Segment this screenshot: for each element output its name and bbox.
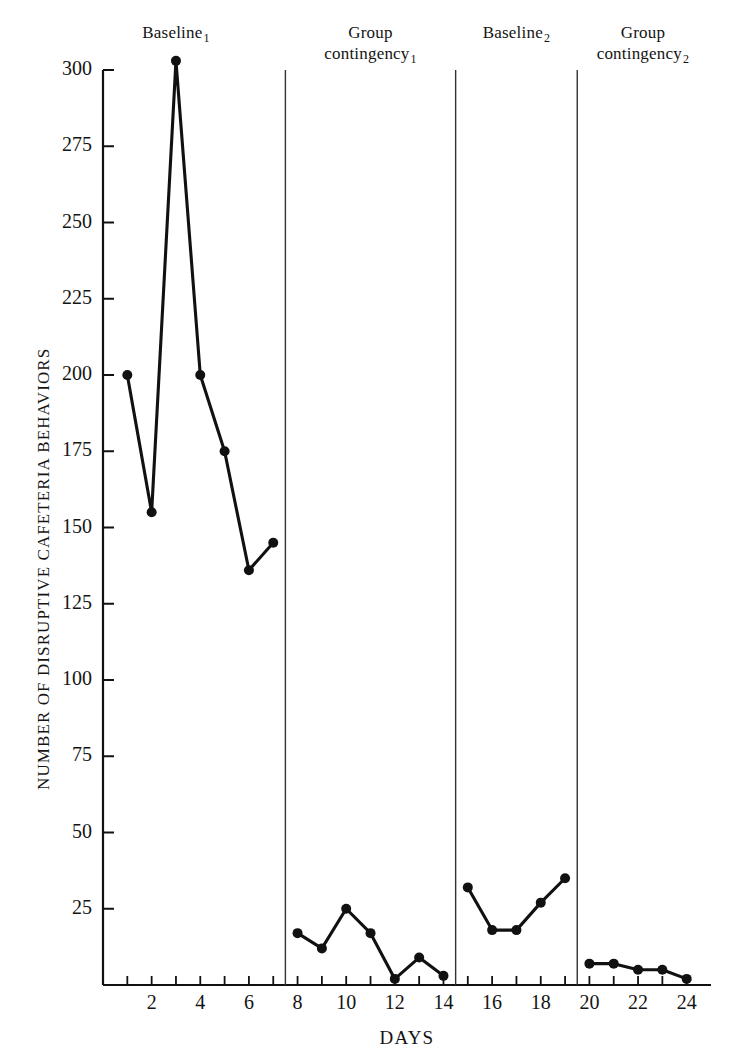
data-point-marker <box>220 446 230 456</box>
y-tick-label: 25 <box>72 896 92 919</box>
data-point-marker <box>463 882 473 892</box>
x-tick-label: 10 <box>321 991 371 1014</box>
data-series-group <box>122 56 691 984</box>
data-point-marker <box>341 904 351 914</box>
y-tick-label: 225 <box>62 286 92 309</box>
y-tick-label: 300 <box>62 57 92 80</box>
phase-label-subscript: 2 <box>682 52 689 66</box>
phase-line <box>298 909 444 979</box>
y-tick-label: 50 <box>72 820 92 843</box>
behavior-line-chart: 255075100125150175200225250275300 246810… <box>0 0 756 1064</box>
y-tick-label: 75 <box>72 743 92 766</box>
phase-divider-group <box>285 70 577 985</box>
data-point-marker <box>487 925 497 935</box>
data-point-marker <box>633 965 643 975</box>
x-tick-label: 4 <box>175 991 225 1014</box>
x-tick-label: 12 <box>370 991 420 1014</box>
x-tick-label: 18 <box>516 991 566 1014</box>
data-point-marker <box>268 538 278 548</box>
y-tick-label: 125 <box>62 591 92 614</box>
x-tick-label: 22 <box>613 991 663 1014</box>
phase-label-subscript: 1 <box>202 31 209 45</box>
y-tick-label: 175 <box>62 438 92 461</box>
phase-label: Groupcontingency2 <box>553 22 733 70</box>
data-point-marker <box>536 898 546 908</box>
data-point-marker <box>390 974 400 984</box>
data-point-marker <box>657 965 667 975</box>
data-point-marker <box>244 565 254 575</box>
data-point-marker <box>317 943 327 953</box>
data-point-marker <box>293 928 303 938</box>
phase-series <box>463 873 570 935</box>
x-tick-label: 14 <box>418 991 468 1014</box>
phase-label-line1: Group <box>553 22 733 43</box>
y-axis-title: NUMBER OF DISRUPTIVE CAFETERIA BEHAVIORS <box>34 348 54 790</box>
x-tick-label: 8 <box>273 991 323 1014</box>
phase-line <box>127 61 273 570</box>
phase-series <box>293 904 449 984</box>
data-point-marker <box>195 370 205 380</box>
chart-canvas <box>0 0 756 1064</box>
x-tick-label: 6 <box>224 991 274 1014</box>
y-tick-label: 275 <box>62 133 92 156</box>
x-axis-title: DAYS <box>307 1027 507 1049</box>
data-point-marker <box>438 971 448 981</box>
data-point-marker <box>682 974 692 984</box>
phase-label-subscript: 2 <box>543 31 550 45</box>
data-point-marker <box>122 370 132 380</box>
y-tick-label: 150 <box>62 515 92 538</box>
data-point-marker <box>511 925 521 935</box>
data-point-marker <box>147 507 157 517</box>
y-tick-label: 100 <box>62 667 92 690</box>
phase-line <box>468 878 565 930</box>
x-tick-label: 16 <box>467 991 517 1014</box>
y-tick-label: 200 <box>62 362 92 385</box>
x-tick-label: 24 <box>662 991 712 1014</box>
data-point-marker <box>584 959 594 969</box>
phase-series <box>122 56 278 575</box>
data-point-marker <box>560 873 570 883</box>
phase-label: Baseline1 <box>86 22 266 49</box>
axes-group <box>103 70 711 985</box>
y-tick-label: 250 <box>62 210 92 233</box>
data-point-marker <box>609 959 619 969</box>
x-tick-label: 20 <box>564 991 614 1014</box>
x-tick-label: 2 <box>127 991 177 1014</box>
data-point-marker <box>171 56 181 66</box>
phase-label-subscript: 1 <box>410 52 417 66</box>
data-point-marker <box>414 953 424 963</box>
phase-label-line1: Baseline1 <box>86 22 266 49</box>
data-point-marker <box>366 928 376 938</box>
phase-label-line2: contingency2 <box>553 43 733 70</box>
